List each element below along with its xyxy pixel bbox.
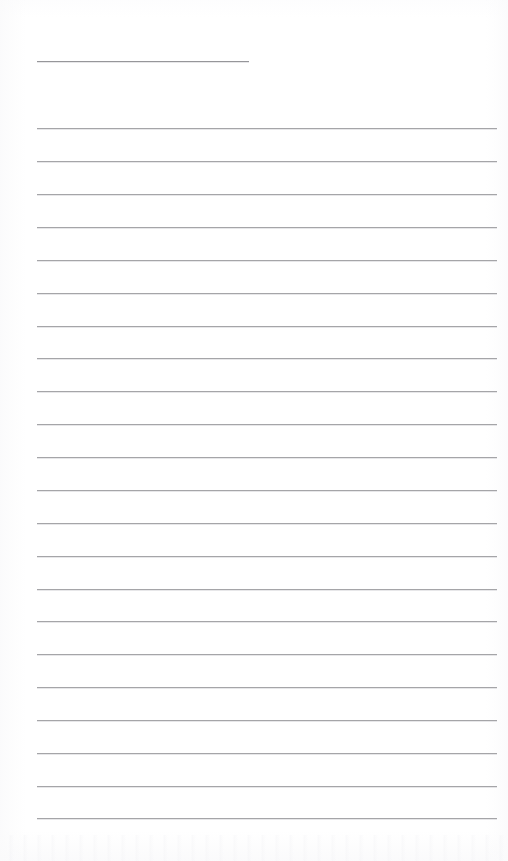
ruled-line (37, 424, 497, 425)
ruled-line (37, 589, 497, 590)
ruled-line (37, 260, 497, 261)
ruled-line (37, 818, 497, 819)
ruled-line (37, 358, 497, 359)
ruled-line (37, 786, 497, 787)
ruled-line (37, 654, 497, 655)
ruled-line (37, 194, 497, 195)
ruled-line (37, 326, 497, 327)
title-rule (37, 61, 249, 62)
ruled-line (37, 161, 497, 162)
ruled-line (37, 687, 497, 688)
lined-paper-page (0, 0, 508, 861)
ruled-line (37, 753, 497, 754)
ruled-line (37, 621, 497, 622)
ruled-line (37, 293, 497, 294)
scan-noise-band (0, 835, 508, 861)
ruled-line (37, 720, 497, 721)
ruled-line (37, 227, 497, 228)
ruled-line (37, 457, 497, 458)
ruled-line (37, 128, 497, 129)
ruled-line (37, 490, 497, 491)
ruled-line (37, 523, 497, 524)
ruled-line (37, 391, 497, 392)
ruled-line (37, 556, 497, 557)
